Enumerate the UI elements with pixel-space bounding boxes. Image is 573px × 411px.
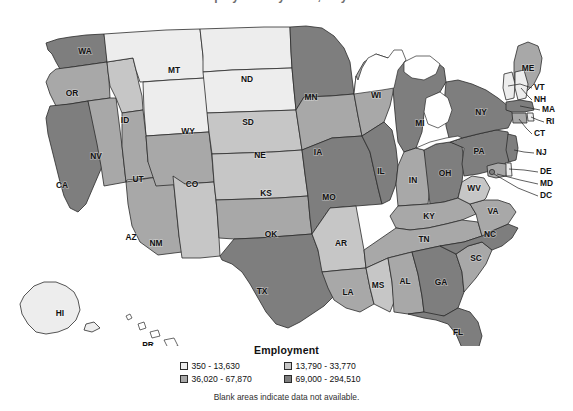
legend-item-2[interactable]: 36,020 - 67,870 (180, 373, 284, 385)
label-KS: KS (260, 188, 272, 198)
legend-item-0[interactable]: 350 - 13,630 (180, 360, 284, 372)
label-ID: ID (121, 115, 129, 125)
legend-label-2: 36,020 - 67,870 (192, 374, 252, 384)
label-OR: OR (66, 88, 79, 98)
label-TN: TN (418, 234, 429, 244)
page-title: Employment by State, May 2023 (195, 0, 377, 3)
label-NV: NV (90, 151, 102, 161)
callout-label-NJ: NJ (536, 147, 547, 157)
label-IA: IA (314, 147, 322, 157)
label-WY: WY (181, 126, 195, 136)
label-IN: IN (409, 175, 417, 185)
state-RI[interactable] (527, 113, 534, 121)
label-AZ: AZ (125, 232, 136, 242)
label-AL: AL (399, 276, 410, 286)
label-ND: ND (241, 74, 253, 84)
legend-label-1: 13,790 - 33,770 (296, 361, 356, 371)
legend-items: 350 - 13,630 13,790 - 33,770 36,020 - 67… (180, 360, 394, 385)
legend-item-1[interactable]: 13,790 - 33,770 (284, 360, 394, 372)
label-TX: TX (257, 286, 268, 296)
callout-label-CT: CT (534, 128, 546, 138)
label-AK: HI (56, 308, 64, 318)
map-legend: Employment 350 - 13,630 13,790 - 33,770 … (0, 344, 573, 389)
label-MS: MS (372, 280, 385, 290)
state-WY[interactable] (143, 78, 209, 136)
state-CT[interactable] (512, 113, 527, 123)
callout-label-MD: MD (540, 178, 553, 188)
label-IL: IL (377, 166, 384, 176)
legend-label-3: 69,000 - 294,510 (296, 374, 361, 384)
state-NE[interactable] (207, 110, 302, 154)
label-KY: KY (423, 211, 435, 221)
label-MO: MO (322, 192, 336, 202)
callout-label-VT: VT (534, 82, 546, 92)
map-page: Employment by State, May 2023 (0, 0, 573, 411)
label-OK: OK (265, 229, 278, 239)
label-NY: NY (475, 107, 487, 117)
us-states-svg: WA OR CA NV ID MT WY UT AZ CO NM ND SD N… (0, 6, 573, 346)
legend-swatch-0 (180, 362, 188, 370)
state-ND[interactable] (200, 27, 292, 72)
label-AR: AR (335, 238, 347, 248)
legend-label-0: 350 - 13,630 (192, 361, 240, 371)
label-NE: NE (254, 150, 266, 160)
label-PA: PA (473, 146, 484, 156)
state-DC[interactable] (489, 169, 494, 174)
label-MT: MT (168, 65, 181, 75)
legend-title: Employment (0, 344, 573, 357)
label-MN: MN (304, 92, 317, 102)
label-WI: WI (371, 90, 381, 100)
label-SC: SC (470, 253, 482, 263)
label-WV: WV (467, 183, 481, 193)
label-LA: LA (342, 287, 353, 297)
callout-line-DE (509, 169, 538, 172)
label-CO: CO (186, 179, 199, 189)
label-VA: VA (487, 206, 498, 216)
label-MI: MI (415, 118, 424, 128)
label-CA: CA (56, 180, 68, 190)
label-WA: WA (78, 46, 92, 56)
legend-swatch-3 (284, 375, 292, 383)
label-FL: FL (453, 327, 463, 337)
choropleth-map: WA OR CA NV ID MT WY UT AZ CO NM ND SD N… (0, 6, 573, 346)
label-SD: SD (242, 117, 254, 127)
label-GA: GA (435, 277, 448, 287)
legend-item-3[interactable]: 69,000 - 294,510 (284, 373, 394, 385)
legend-swatch-2 (180, 375, 188, 383)
callout-label-DE: DE (540, 166, 552, 176)
callout-label-MA: MA (542, 104, 555, 114)
label-NC: NC (484, 229, 496, 239)
label-ME: ME (522, 63, 535, 73)
callout-label-NH: NH (534, 94, 546, 104)
callout-label-DC: DC (540, 190, 552, 200)
callout-label-RI: RI (546, 116, 554, 126)
state-NJ[interactable] (506, 134, 518, 162)
state-CO[interactable] (146, 132, 214, 186)
legend-swatch-1 (284, 362, 292, 370)
label-UT: UT (132, 174, 144, 184)
label-OH: OH (439, 168, 452, 178)
no-data-footnote: Blank areas indicate data not available. (0, 392, 573, 402)
label-NM: NM (149, 238, 162, 248)
